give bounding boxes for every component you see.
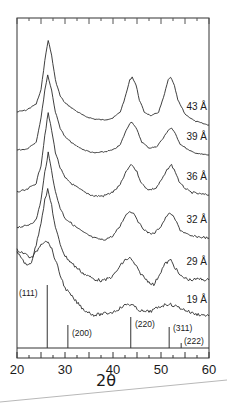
x-axis-title: 2θ xyxy=(96,371,116,390)
reference-lines: (111)(200)(220)(311)(222) xyxy=(19,285,204,348)
series-curve xyxy=(17,75,209,155)
frame-border xyxy=(17,18,209,358)
x-tick-label: 20 xyxy=(10,362,24,377)
series-curves xyxy=(17,41,209,317)
series-label: 36 Å xyxy=(186,170,207,182)
series-label: 39 Å xyxy=(186,130,207,142)
series-curve xyxy=(17,241,209,316)
x-tick-label: 60 xyxy=(202,362,216,377)
reference-label: (220) xyxy=(135,319,155,329)
series-label: 19 Å xyxy=(186,293,207,305)
series-label: 29 Å xyxy=(186,255,207,267)
reference-label: (111) xyxy=(19,288,38,298)
reference-label: (200) xyxy=(72,328,92,338)
series-curve xyxy=(17,41,209,126)
series-labels: 43 Å39 Å36 Å32 Å29 Å19 Å xyxy=(186,100,207,305)
reference-label: (222) xyxy=(184,336,204,346)
series-label: 32 Å xyxy=(186,213,207,225)
xrd-chart: 2030405060 (111)(200)(220)(311)(222) 43 … xyxy=(0,0,227,410)
x-tick-label: 50 xyxy=(154,362,168,377)
series-label: 43 Å xyxy=(186,100,207,112)
series-curve xyxy=(17,189,209,286)
series-curve xyxy=(17,113,209,197)
plot-frame xyxy=(17,18,209,358)
x-tick-label: 30 xyxy=(58,362,72,377)
x-axis-ticks xyxy=(17,18,209,358)
reference-label: (311) xyxy=(173,323,192,333)
